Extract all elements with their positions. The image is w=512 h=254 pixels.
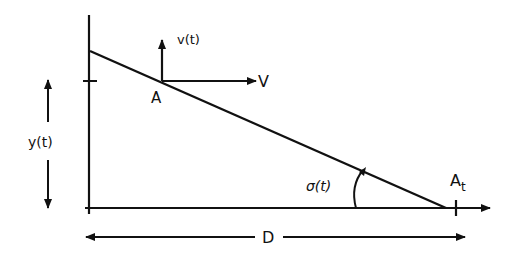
diagram-canvas: A v(t) V y(t) σ(t) D At (0, 0, 512, 254)
point-a-label: A (151, 89, 162, 107)
angle-arc (354, 170, 363, 208)
target-label-main: A (450, 171, 461, 190)
target-label: At (450, 171, 466, 194)
altitude-label: y(t) (28, 134, 53, 150)
distance-label: D (262, 228, 274, 247)
vertical-velocity-label: v(t) (177, 32, 200, 47)
trajectory-diagram: A v(t) V y(t) σ(t) D At (0, 0, 512, 254)
target-label-sub: t (461, 180, 466, 194)
horizontal-velocity-label: V (258, 72, 269, 91)
angle-label: σ(t) (306, 178, 331, 194)
